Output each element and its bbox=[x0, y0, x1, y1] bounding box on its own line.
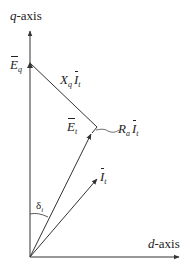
et-vector bbox=[30, 134, 91, 257]
delta-label: δi bbox=[36, 200, 43, 214]
eq-label: Eq bbox=[10, 58, 22, 74]
q-suffix: -axis bbox=[17, 8, 42, 23]
delta-sub: i bbox=[41, 206, 43, 214]
et-base: E bbox=[67, 120, 75, 133]
ra-coef-sub: a bbox=[126, 129, 130, 138]
ra-coef: R bbox=[118, 121, 126, 136]
it-sub: t bbox=[104, 177, 106, 186]
ra-it-sub: t bbox=[136, 129, 138, 138]
ra-it-base: I bbox=[132, 122, 136, 135]
xq-it-base: I bbox=[74, 73, 78, 86]
xq-coef: X bbox=[60, 72, 68, 87]
et-label: Et bbox=[67, 120, 77, 136]
phasor-lines bbox=[0, 0, 195, 276]
it-label: It bbox=[100, 170, 107, 186]
et-sub: t bbox=[75, 127, 77, 136]
d-suffix: -axis bbox=[155, 236, 180, 251]
eq-sub: q bbox=[18, 65, 22, 74]
xq-it-sub: t bbox=[78, 80, 80, 89]
phasor-diagram: q-axis Eq XqIt Et RaIt It δi d-axis bbox=[0, 0, 195, 276]
d-axis-label: d-axis bbox=[148, 237, 180, 250]
xq-it-label: XqIt bbox=[60, 73, 81, 89]
it-base: I bbox=[100, 170, 104, 183]
ra-it-leader bbox=[96, 129, 119, 132]
eq-base: E bbox=[10, 58, 18, 71]
xq-coef-sub: q bbox=[68, 80, 72, 89]
it-vector bbox=[30, 179, 97, 257]
q-axis-label: q-axis bbox=[10, 9, 42, 22]
ra-it-label: RaIt bbox=[118, 122, 139, 138]
